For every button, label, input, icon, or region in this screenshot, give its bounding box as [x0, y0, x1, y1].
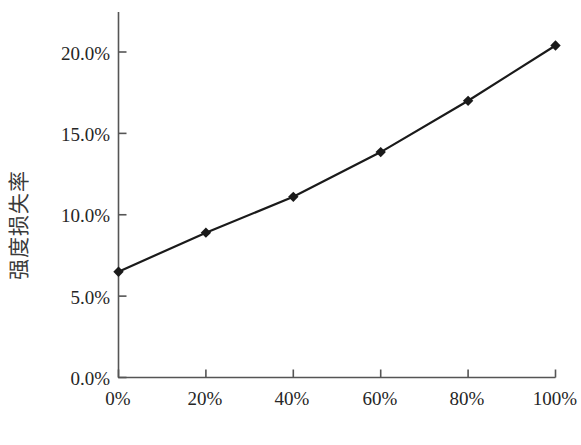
- x-axis-ticks: [119, 370, 556, 378]
- chart-container: 强度损失率 20.0% 15.0% 10.0% 5.0% 0.0% 0% 20%…: [0, 0, 581, 445]
- data-point-marker: [376, 147, 386, 157]
- data-point-marker: [201, 227, 211, 237]
- y-axis-ticks: [119, 52, 127, 378]
- data-point-marker: [113, 267, 123, 277]
- data-line: [119, 46, 556, 272]
- data-point-marker: [463, 96, 473, 106]
- data-point-marker: [288, 192, 298, 202]
- plot-area: [0, 0, 581, 445]
- data-point-marker: [550, 40, 560, 50]
- data-markers: [113, 40, 560, 277]
